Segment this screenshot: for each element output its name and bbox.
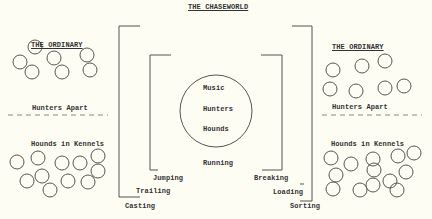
left-lower-label: Hounds in Kennels bbox=[31, 140, 104, 148]
left-hound-circle bbox=[35, 169, 49, 183]
left-hound-circle bbox=[61, 174, 75, 188]
title: THE CHASEWORLD bbox=[188, 3, 248, 11]
inner-right-bracket bbox=[261, 55, 282, 170]
inner-left-bracket bbox=[150, 55, 171, 170]
right-hound-circle bbox=[407, 146, 421, 160]
right-hound-circle bbox=[367, 163, 381, 177]
right-hound-circle bbox=[390, 183, 404, 197]
left-hunter-circle bbox=[55, 65, 69, 79]
left-hound-circle bbox=[91, 149, 105, 163]
right-heading: THE ORDINARY bbox=[332, 43, 384, 51]
right-hound-circle bbox=[391, 149, 405, 163]
left-hound-circle bbox=[10, 155, 24, 169]
right-hunter-circle bbox=[323, 82, 337, 96]
left-hound-circle bbox=[31, 151, 45, 165]
left-divider-label: Hunters Apart bbox=[32, 104, 88, 112]
left-heading: THE ORDINARY bbox=[31, 41, 83, 49]
right-hound-circle bbox=[344, 157, 358, 171]
left-hound-circle bbox=[91, 164, 105, 178]
jumping-label: Jumping bbox=[153, 174, 183, 182]
right-hound-circle bbox=[324, 151, 338, 165]
sorting-label: Sorting bbox=[290, 202, 320, 210]
left-hunter-circle bbox=[13, 55, 27, 69]
left-hound-circle bbox=[55, 156, 69, 170]
left-hunter-circle bbox=[83, 63, 97, 77]
right-divider-label: Hunters Apart bbox=[332, 103, 388, 111]
right-hunter-circle bbox=[397, 79, 411, 93]
right-hound-circle bbox=[383, 174, 397, 188]
breaking-label: Breaking bbox=[254, 174, 288, 182]
left-hunter-circle bbox=[25, 65, 39, 79]
right-lower-label: Hounds in Kennels bbox=[331, 140, 404, 148]
right-hunter-circle bbox=[349, 84, 363, 98]
left-hound-circle bbox=[81, 175, 95, 189]
outer-left-bracket bbox=[119, 26, 140, 197]
trailing-label: Trailing bbox=[136, 187, 170, 195]
outer-right-bracket bbox=[292, 26, 312, 201]
circle-label-hunters: Hunters bbox=[203, 105, 233, 113]
right-hound-circle bbox=[399, 165, 413, 179]
right-hunter-circle bbox=[326, 63, 340, 77]
right-hound-circle bbox=[329, 168, 343, 182]
circle-group bbox=[10, 40, 421, 197]
left-hunter-circle bbox=[47, 51, 61, 65]
left-hunter-circle bbox=[80, 48, 94, 62]
right-hunter-circle bbox=[378, 54, 392, 68]
right-hound-circle bbox=[353, 183, 367, 197]
casting-label: Casting bbox=[125, 202, 155, 210]
circle-label-hounds: Hounds bbox=[203, 125, 229, 133]
circle-label-music: Music bbox=[203, 84, 225, 92]
right-hunter-circle bbox=[378, 81, 392, 95]
left-hound-circle bbox=[20, 174, 34, 188]
loading-label: Loading bbox=[273, 188, 303, 196]
right-hound-circle bbox=[366, 178, 380, 192]
left-hound-circle bbox=[73, 156, 87, 170]
right-hound-circle bbox=[326, 182, 340, 196]
right-hunter-circle bbox=[355, 59, 369, 73]
left-hound-circle bbox=[43, 183, 57, 197]
running-label: Running bbox=[203, 159, 233, 167]
